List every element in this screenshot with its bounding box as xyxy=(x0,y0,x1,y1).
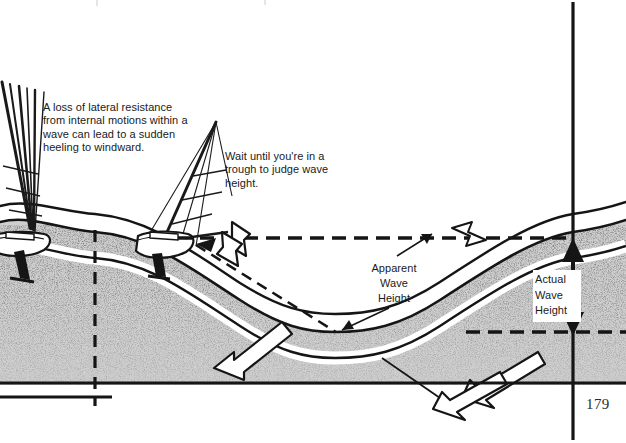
wave-diagram-illustration xyxy=(0,0,626,443)
annotation-loss-of-lateral-resistance: A loss of lateral resistance from intern… xyxy=(43,101,193,155)
label-apparent-wave-height: Apparent Wave Height xyxy=(352,261,436,306)
wave-travel-arrow-right xyxy=(452,222,486,246)
label-actual-wave-height: Actual Wave Height xyxy=(533,270,581,322)
heeling-block-arrow xyxy=(217,222,250,266)
annotation-wait-until-trough: Wait until you're in a trough to judge w… xyxy=(225,150,350,190)
page-number: 179 xyxy=(586,396,610,413)
figure-page: A loss of lateral resistance from intern… xyxy=(0,0,626,443)
registration-marks xyxy=(97,0,265,6)
heeling-solid-arrowhead xyxy=(196,238,216,252)
